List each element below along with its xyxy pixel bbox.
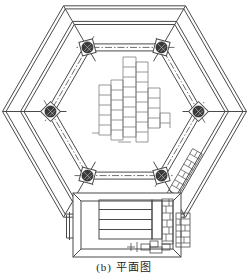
roof-hip-lines: [3, 6, 247, 217]
entrance-annex: [67, 193, 191, 257]
beam-lines: [44, 36, 205, 187]
floor-plan-figure: (b) 平面图: [0, 0, 248, 275]
central-rockery-hatch: [92, 57, 170, 142]
floor-plan-drawing: [0, 0, 248, 275]
figure-caption: (b) 平面图: [0, 258, 248, 274]
